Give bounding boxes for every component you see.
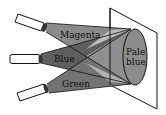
label-green: Green: [62, 79, 90, 89]
torch-top: [15, 14, 48, 33]
label-blue: Blue: [54, 54, 75, 64]
label-blue-result: blue: [126, 57, 146, 67]
torch-bottom: [17, 83, 49, 101]
colour-mixing-diagram: Magenta Blue Green Pale blue: [0, 0, 166, 115]
label-pale: Pale: [126, 47, 145, 57]
torch-middle: [10, 54, 43, 63]
label-magenta: Magenta: [60, 30, 101, 40]
